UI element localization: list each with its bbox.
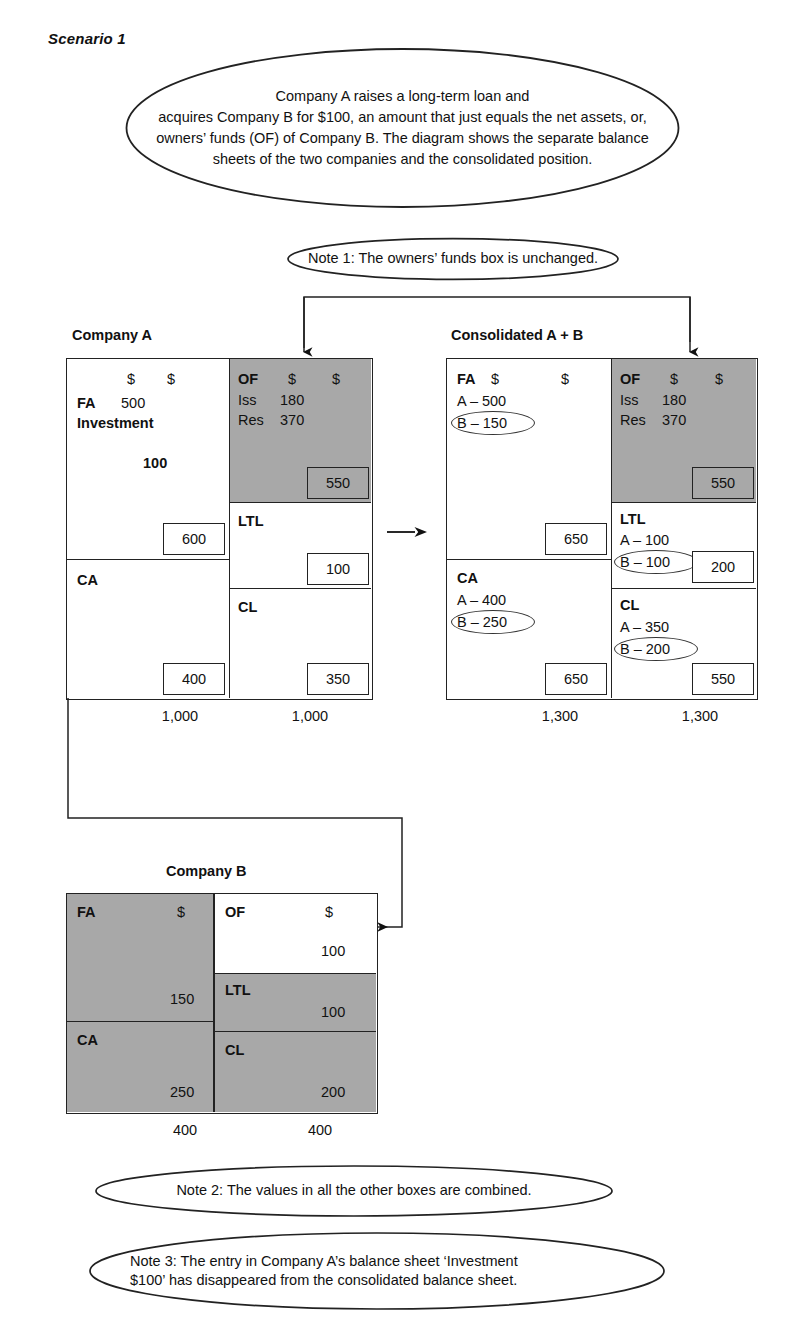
dollar-icon: $ bbox=[491, 371, 499, 387]
ca-label: CA bbox=[457, 570, 478, 586]
dollar-icon: $ bbox=[325, 904, 333, 920]
of-subtotal-box: 550 bbox=[692, 467, 754, 499]
cl-label: CL bbox=[225, 1042, 244, 1058]
of-label: OF bbox=[225, 904, 245, 920]
dollar-icon: $ bbox=[715, 371, 723, 387]
ca-total: 250 bbox=[170, 1084, 194, 1100]
iss-label: Iss bbox=[238, 392, 257, 408]
ltl-label: LTL bbox=[620, 511, 646, 527]
iss-value: 180 bbox=[662, 392, 686, 408]
company-a-assets-total: 1,000 bbox=[140, 708, 220, 724]
ca-subtotal-box: 400 bbox=[163, 663, 225, 695]
company-a-ca-cell: CA 400 bbox=[67, 559, 229, 698]
fa-subtotal-box: 600 bbox=[163, 523, 225, 555]
res-label: Res bbox=[620, 412, 646, 428]
dollar-icon: $ bbox=[167, 371, 175, 387]
cl-total: 200 bbox=[321, 1084, 345, 1100]
dollar-icon: $ bbox=[561, 371, 569, 387]
iss-label: Iss bbox=[620, 392, 639, 408]
res-value: 370 bbox=[280, 412, 304, 428]
note2-text: Note 2: The values in all the other boxe… bbox=[94, 1165, 614, 1217]
of-label: OF bbox=[238, 371, 258, 387]
consolidated-fa-cell: FA $ $ A – 500 B – 150 650 bbox=[447, 359, 611, 559]
fa-subtotal-box: 650 bbox=[545, 523, 607, 555]
dollar-icon: $ bbox=[332, 371, 340, 387]
ltl-value-a: A – 100 bbox=[620, 532, 669, 548]
company-a-of-cell: OF $ $ Iss 180 Res 370 550 bbox=[230, 359, 371, 502]
company-a-ltl-cell: LTL 100 bbox=[230, 502, 371, 588]
ltl-label: LTL bbox=[225, 982, 251, 998]
fa-label: FA bbox=[457, 371, 476, 387]
dollar-icon: $ bbox=[288, 371, 296, 387]
of-total: 100 bbox=[321, 943, 345, 959]
company-b-ltl-cell: LTL 100 bbox=[215, 973, 376, 1031]
investment-value: 100 bbox=[143, 455, 167, 471]
dollar-icon: $ bbox=[670, 371, 678, 387]
consolidated-ltl-cell: LTL A – 100 B – 100 200 bbox=[612, 502, 756, 588]
ca-label: CA bbox=[77, 572, 98, 588]
fa-total: 150 bbox=[170, 991, 194, 1007]
ca-label: CA bbox=[77, 1032, 98, 1048]
consolidated-sheet: FA $ $ A – 500 B – 150 650 CA A – 400 B … bbox=[446, 358, 758, 700]
company-b-ca-cell: CA 250 bbox=[67, 1021, 213, 1112]
company-b-of-cell: OF $ 100 bbox=[215, 894, 376, 973]
iss-value: 180 bbox=[280, 392, 304, 408]
res-label: Res bbox=[238, 412, 264, 428]
company-b-sheet: FA $ 150 CA 250 OF $ 100 LTL 100 CL 200 bbox=[66, 893, 378, 1114]
note3-text: Note 3: The entry in Company A’s balance… bbox=[88, 1232, 666, 1310]
cl-subtotal-box: 550 bbox=[692, 663, 754, 695]
consolidated-cl-cell: CL A – 350 B – 200 550 bbox=[612, 588, 756, 698]
of-subtotal-box: 550 bbox=[307, 467, 369, 499]
ca-value-a: A – 400 bbox=[457, 592, 506, 608]
investment-label: Investment bbox=[77, 415, 154, 431]
company-a-cl-cell: CL 350 bbox=[230, 588, 371, 698]
consolidated-of-cell: OF $ $ Iss 180 Res 370 550 bbox=[612, 359, 756, 502]
res-value: 370 bbox=[662, 412, 686, 428]
company-b-title: Company B bbox=[166, 863, 247, 879]
note3-callout: Note 3: The entry in Company A’s balance… bbox=[88, 1232, 666, 1310]
consolidated-title: Consolidated A + B bbox=[451, 327, 583, 343]
consolidated-assets-total: 1,300 bbox=[520, 708, 600, 724]
ltl-total: 100 bbox=[321, 1004, 345, 1020]
ltl-label: LTL bbox=[238, 513, 264, 529]
note1-connector bbox=[304, 297, 690, 352]
ca-value-b: B – 250 bbox=[457, 614, 507, 630]
dollar-icon: $ bbox=[177, 904, 185, 920]
fa-label: FA bbox=[77, 395, 96, 411]
company-b-fa-cell: FA $ 150 bbox=[67, 894, 213, 1021]
cl-label: CL bbox=[238, 599, 257, 615]
company-a-fa-cell: $ $ FA 500 Investment 100 600 bbox=[67, 359, 229, 559]
consolidated-ca-cell: CA A – 400 B – 250 650 bbox=[447, 559, 611, 698]
ltl-subtotal-box: 200 bbox=[692, 551, 754, 583]
cl-label: CL bbox=[620, 597, 639, 613]
ltl-value-b: B – 100 bbox=[620, 554, 670, 570]
consolidated-liabilities-total: 1,300 bbox=[660, 708, 740, 724]
company-b-cl-cell: CL 200 bbox=[215, 1031, 376, 1112]
cl-subtotal-box: 350 bbox=[307, 663, 369, 695]
fa-label: FA bbox=[77, 904, 96, 920]
cl-value-a: A – 350 bbox=[620, 619, 669, 635]
fa-value: 500 bbox=[121, 395, 145, 411]
cl-value-b: B – 200 bbox=[620, 641, 670, 657]
company-b-assets-total: 400 bbox=[145, 1122, 225, 1138]
fa-value-b: B – 150 bbox=[457, 415, 507, 431]
ca-subtotal-box: 650 bbox=[545, 663, 607, 695]
company-a-sheet: $ $ FA 500 Investment 100 600 CA 400 OF … bbox=[66, 358, 373, 700]
of-label: OF bbox=[620, 371, 640, 387]
transform-arrow-icon bbox=[385, 520, 421, 544]
company-a-liabilities-total: 1,000 bbox=[270, 708, 350, 724]
ltl-subtotal-box: 100 bbox=[307, 553, 369, 585]
dollar-icon: $ bbox=[127, 371, 135, 387]
note2-callout: Note 2: The values in all the other boxe… bbox=[94, 1165, 614, 1217]
company-a-title: Company A bbox=[72, 327, 152, 343]
fa-value-a: A – 500 bbox=[457, 393, 506, 409]
company-b-liabilities-total: 400 bbox=[280, 1122, 360, 1138]
